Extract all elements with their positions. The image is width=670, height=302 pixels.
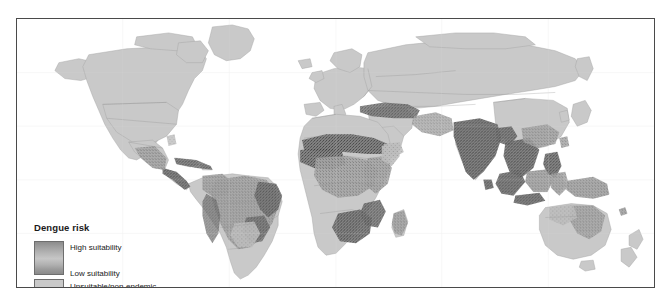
legend-label-unsuitable: Unsuitable/non-endemic [70, 282, 156, 288]
map-legend: Dengue risk High suitability Low suitabi… [34, 222, 194, 288]
dengue-risk-figure: Dengue risk High suitability Low suitabi… [0, 0, 670, 302]
legend-label-low-suitability: Low suitability [70, 269, 120, 278]
world-map-frame: Dengue risk High suitability Low suitabi… [16, 18, 655, 288]
legend-label-high-suitability: High suitability [70, 243, 122, 252]
land-korea [559, 110, 569, 122]
legend-swatch-unsuitable [34, 279, 64, 288]
legend-title: Dengue risk [34, 222, 89, 233]
legend-swatch-suitability-gradient [34, 241, 64, 275]
